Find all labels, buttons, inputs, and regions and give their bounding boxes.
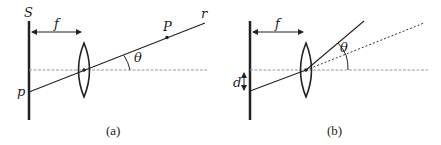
- lens-center-dot: [82, 68, 86, 72]
- lens-diagram: S f P r p θ (a) f d θ (b): [0, 0, 441, 145]
- panel-b-caption: (b): [327, 123, 342, 138]
- angle-label: θ: [134, 50, 142, 65]
- displacement-label: d: [233, 75, 241, 90]
- screen-label: S: [24, 5, 33, 20]
- ray-undeflected-dotted: [306, 23, 424, 70]
- lens-center-dot: [304, 68, 308, 72]
- angle-label: θ: [340, 40, 348, 55]
- ray-label: r: [201, 6, 208, 21]
- focal-length-label: f: [53, 16, 61, 31]
- panel-a: S f P r p θ (a): [17, 5, 208, 138]
- angle-arc-axis: [346, 55, 348, 70]
- panel-a-caption: (a): [106, 123, 120, 138]
- ray-r: [29, 23, 205, 92]
- angle-arc: [124, 56, 130, 71]
- focal-length-label: f: [274, 16, 282, 31]
- ray-deflected: [306, 21, 364, 70]
- object-point-dot: [165, 36, 169, 40]
- image-point-label: p: [17, 84, 26, 99]
- object-point-label: P: [162, 19, 172, 34]
- panel-b: f d θ (b): [233, 16, 428, 138]
- ray-incident: [250, 70, 306, 91]
